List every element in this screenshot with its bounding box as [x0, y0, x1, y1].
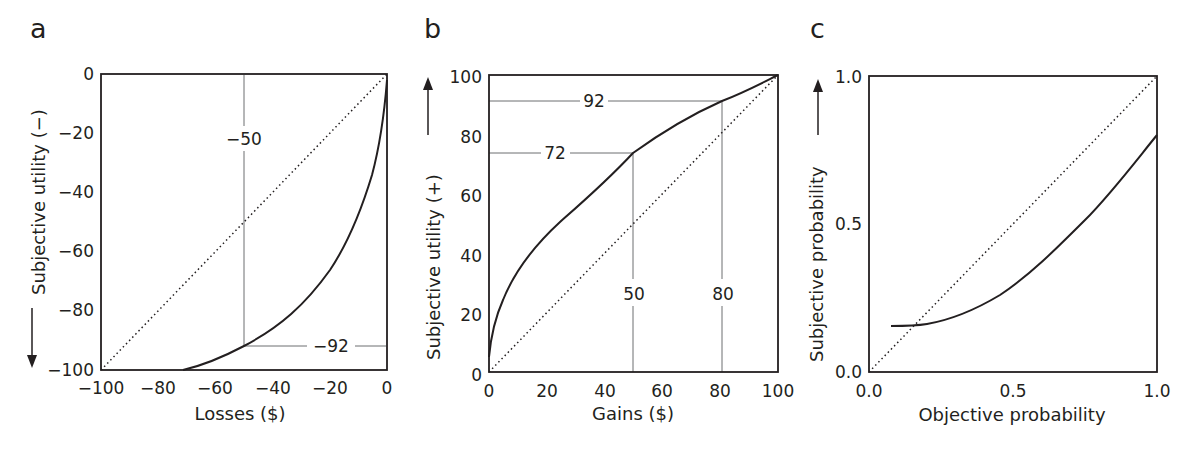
- y-tick: 40: [460, 246, 482, 266]
- annotation-50: 50: [623, 284, 645, 304]
- y-tick: 0.0: [835, 362, 862, 382]
- y-tick: 100: [450, 67, 482, 87]
- y-tick: 1.0: [835, 67, 862, 87]
- y-tick: 0: [471, 365, 482, 385]
- x-tick: −40: [255, 378, 291, 398]
- panel-letter-b: b: [424, 13, 441, 44]
- panel-a: a Subjective utility (−) 0 −20 −40 −60 −…: [27, 13, 392, 424]
- y-axis-label-text-a: Subjective utility (−): [28, 109, 49, 295]
- panel-letter-c: c: [810, 13, 825, 44]
- y-axis-label-b: Subjective utility (+): [423, 77, 444, 360]
- panel-b: b Subjective utility (+) 0 20 40 60 80 1…: [423, 13, 794, 424]
- y-axis-label-text-b: Subjective utility (+): [423, 174, 444, 360]
- x-ticks-a: −100 −80 −60 −40 −20 0: [78, 378, 393, 398]
- y-tick: −60: [58, 241, 94, 261]
- annotation-minus-92: −92: [313, 336, 349, 356]
- x-tick: −60: [197, 378, 233, 398]
- y-ticks-a: 0 −20 −40 −60 −80 −100: [47, 64, 94, 380]
- y-axis-label-a: Subjective utility (−): [27, 109, 49, 368]
- y-tick: 20: [460, 305, 482, 325]
- identity-line-c: [869, 76, 1157, 372]
- x-tick: 60: [651, 381, 673, 401]
- y-tick: −20: [58, 123, 94, 143]
- x-tick: −80: [140, 378, 176, 398]
- y-tick: 0: [83, 64, 94, 84]
- x-tick: −100: [78, 378, 125, 398]
- y-tick: 80: [460, 127, 482, 147]
- x-tick: 0.0: [855, 381, 882, 401]
- up-arrowhead-icon: [423, 77, 433, 90]
- x-tick: 0: [484, 381, 495, 401]
- up-arrowhead-icon: [813, 79, 823, 92]
- x-axis-label-a: Losses ($): [194, 403, 285, 424]
- loss-utility-curve: [183, 80, 387, 370]
- y-axis-label-c: Subjective probability: [806, 79, 827, 362]
- annotation-minus-50: −50: [226, 129, 262, 149]
- x-tick: 100: [762, 381, 794, 401]
- y-tick: 60: [460, 186, 482, 206]
- annotation-92: 92: [583, 91, 605, 111]
- y-tick: −100: [47, 360, 94, 380]
- y-ticks-b: 0 20 40 60 80 100: [450, 67, 482, 385]
- y-ticks-c: 0.0 0.5 1.0: [835, 67, 862, 382]
- figure: a Subjective utility (−) 0 −20 −40 −60 −…: [0, 0, 1190, 451]
- x-axis-label-b: Gains ($): [592, 403, 674, 424]
- probability-weighting-curve: [891, 135, 1157, 326]
- x-tick: 40: [594, 381, 616, 401]
- panel-c: c Subjective probability 0.0 0.5 1.0 0.0…: [806, 13, 1171, 425]
- annotation-72: 72: [544, 143, 566, 163]
- x-tick: −20: [312, 378, 348, 398]
- y-tick: −80: [58, 300, 94, 320]
- x-tick: 20: [536, 381, 558, 401]
- x-tick: 1.0: [1143, 381, 1170, 401]
- y-tick: 0.5: [835, 214, 862, 234]
- annotation-80: 80: [712, 284, 734, 304]
- x-ticks-b: 0 20 40 60 80 100: [484, 381, 795, 401]
- x-tick: 0: [382, 378, 393, 398]
- x-tick: 80: [709, 381, 731, 401]
- down-arrowhead-icon: [27, 355, 37, 368]
- y-tick: −40: [58, 182, 94, 202]
- panel-letter-a: a: [30, 13, 47, 44]
- x-tick: 0.5: [999, 381, 1026, 401]
- x-ticks-c: 0.0 0.5 1.0: [855, 381, 1170, 401]
- y-axis-label-text-c: Subjective probability: [806, 166, 827, 362]
- x-axis-label-c: Objective probability: [918, 404, 1105, 425]
